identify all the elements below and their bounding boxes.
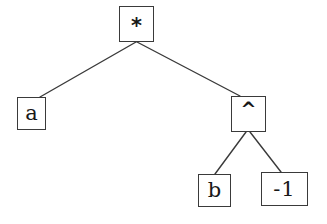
tree-node-label-root: * <box>131 16 142 37</box>
tree-edge-root-pow <box>137 42 240 96</box>
tree-node-b[interactable]: b <box>198 174 231 207</box>
tree-node-neg1[interactable]: -1 <box>261 172 308 206</box>
tree-edge-pow-neg1 <box>250 132 281 172</box>
tree-node-root[interactable]: * <box>119 6 154 42</box>
expression-tree-diagram: *a^b-1 <box>0 0 327 224</box>
tree-node-pow[interactable]: ^ <box>231 96 266 132</box>
tree-node-label-neg1: -1 <box>273 179 295 200</box>
tree-node-a[interactable]: a <box>17 97 46 130</box>
tree-edge-pow-b <box>215 132 246 174</box>
tree-node-label-b: b <box>208 180 221 201</box>
tree-node-label-pow: ^ <box>241 100 257 119</box>
tree-edge-root-a <box>40 42 136 97</box>
tree-node-label-a: a <box>25 103 38 124</box>
